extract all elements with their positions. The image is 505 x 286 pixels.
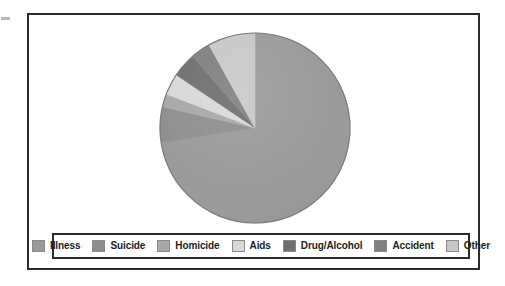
legend-item-label: Aids [250, 241, 271, 251]
legend-swatch-icon [92, 240, 105, 252]
legend-item-homicide[interactable]: Homicide [157, 240, 219, 252]
pie-shading-overlay [160, 33, 350, 223]
chart-legend: IllnessSuicideHomicideAidsDrug/AlcoholAc… [52, 233, 470, 259]
legend-item-label: Other [464, 241, 490, 251]
legend-item-label: Drug/Alcohol [301, 241, 363, 251]
legend-swatch-icon [232, 240, 245, 252]
legend-swatch-icon [32, 240, 45, 252]
legend-item-label: Illness [50, 241, 80, 251]
legend-item-list: IllnessSuicideHomicideAidsDrug/AlcoholAc… [26, 240, 496, 252]
legend-item-accident[interactable]: Accident [374, 240, 433, 252]
scan-artifact [1, 17, 10, 20]
legend-item-label: Accident [392, 241, 433, 251]
legend-swatch-icon [446, 240, 459, 252]
chart-figure-frame: IllnessSuicideHomicideAidsDrug/AlcoholAc… [27, 13, 480, 270]
legend-item-suicide[interactable]: Suicide [92, 240, 145, 252]
legend-item-aids[interactable]: Aids [232, 240, 271, 252]
legend-swatch-icon [157, 240, 170, 252]
legend-item-illness[interactable]: Illness [32, 240, 80, 252]
legend-item-drug-alcohol[interactable]: Drug/Alcohol [283, 240, 363, 252]
legend-item-label: Homicide [175, 241, 219, 251]
legend-item-other[interactable]: Other [446, 240, 490, 252]
legend-item-label: Suicide [110, 241, 145, 251]
legend-swatch-icon [283, 240, 296, 252]
legend-swatch-icon [374, 240, 387, 252]
